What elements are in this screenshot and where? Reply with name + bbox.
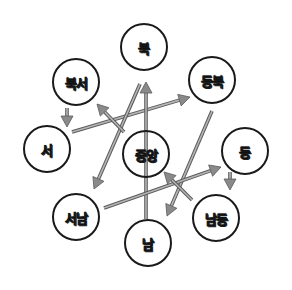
node-southwest: 서남 bbox=[52, 193, 100, 241]
node-label: 서 bbox=[41, 140, 53, 159]
arrowhead-icon bbox=[178, 94, 190, 106]
node-label: 동 bbox=[239, 142, 251, 161]
node-label: 북 bbox=[138, 38, 150, 57]
node-label: 남동 bbox=[205, 209, 228, 228]
arrowhead-icon bbox=[140, 82, 152, 93]
node-label: 동북 bbox=[201, 71, 224, 90]
arrowhead-icon bbox=[61, 116, 73, 127]
node-southeast: 남동 bbox=[192, 194, 240, 242]
node-northeast: 동북 bbox=[188, 56, 236, 104]
node-northwest: 북서 bbox=[52, 58, 100, 106]
node-label: 북서 bbox=[65, 73, 88, 92]
node-label: 서남 bbox=[65, 208, 88, 227]
arrowhead-icon bbox=[209, 165, 221, 176]
node-north: 북 bbox=[120, 23, 168, 71]
arrowhead-icon bbox=[224, 179, 236, 190]
arrow-east-to-southeast bbox=[224, 172, 236, 190]
arrow-northwest-to-west bbox=[61, 108, 73, 127]
node-east: 동 bbox=[221, 127, 269, 175]
node-south: 남 bbox=[124, 219, 172, 267]
node-label: 중앙 bbox=[135, 145, 158, 164]
direction-diagram: 북북서동북서중앙동서남남동남 bbox=[0, 0, 292, 290]
node-label: 남 bbox=[142, 234, 154, 253]
node-center: 중앙 bbox=[122, 130, 170, 178]
node-west: 서 bbox=[23, 125, 71, 173]
